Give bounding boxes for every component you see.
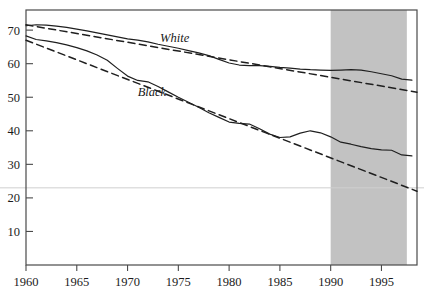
x-axis-tick-label: 1985 [267,275,292,289]
y-axis-tick-label: 10 [8,225,21,239]
x-axis-tick-label: 1970 [115,275,140,289]
series-annotation-black: Black [138,85,167,99]
x-axis-tick-label: 1980 [217,275,242,289]
y-axis-tick-label: 20 [8,191,21,205]
shaded-period-region [331,10,407,265]
x-axis-tick-label: 1960 [14,275,39,289]
chart-figure: 1020304050607019601965197019751980198519… [0,0,424,298]
axis-ticks [26,30,381,271]
series-annotation-white: White [160,31,190,45]
x-axis-tick-label: 1975 [166,275,191,289]
x-axis-tick-label: 1995 [369,275,394,289]
x-axis-tick-label: 1990 [318,275,343,289]
y-axis-tick-label: 60 [8,57,21,71]
y-axis-tick-label: 30 [8,158,21,172]
y-axis-tick-label: 70 [8,24,21,38]
y-axis-tick-label: 40 [8,124,21,138]
y-axis-tick-label: 50 [8,91,21,105]
line-chart: 1020304050607019601965197019751980198519… [0,0,424,298]
x-axis-tick-label: 1965 [64,275,89,289]
